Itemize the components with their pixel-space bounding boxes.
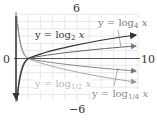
label-log4: y = log4 x <box>97 18 148 30</box>
label-log-quarter: y = log1/4 x <box>91 89 149 101</box>
label-log2: y = log2 x <box>34 30 85 42</box>
y-top-label: 6 <box>73 3 80 14</box>
origin-label: 0 <box>3 54 10 65</box>
x-right-label: 10 <box>141 54 155 65</box>
y-bottom-label: −6 <box>69 104 85 115</box>
label-log-half: y = log1/2 x <box>34 79 92 91</box>
log-chart: 6 −6 0 10 y = log2 x y = log4 x y = log1… <box>0 0 157 122</box>
